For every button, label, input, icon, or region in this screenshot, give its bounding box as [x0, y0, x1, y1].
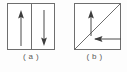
- caption-b: ( b ): [62, 52, 127, 62]
- arrow-up-left-domain: [15, 9, 27, 47]
- panel-b: ( b ): [62, 0, 127, 72]
- arrow-left-lower-domain: [94, 33, 122, 45]
- panel-a: ( a ): [0, 0, 62, 72]
- domain-wall-vertical: [31, 4, 32, 49]
- arrow-down-right-domain: [38, 9, 50, 47]
- domain-box-b: [74, 3, 121, 50]
- domain-box-a: [7, 3, 55, 50]
- figure-root: ( a ) ( b ): [0, 0, 127, 72]
- caption-a: ( a ): [0, 52, 62, 62]
